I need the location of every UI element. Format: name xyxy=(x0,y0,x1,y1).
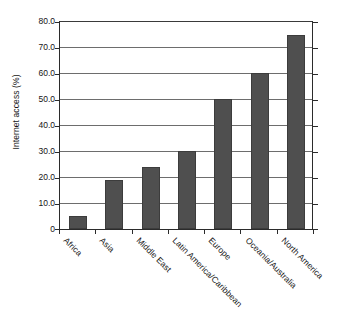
x-axis-tick-mark xyxy=(132,229,133,234)
x-axis-tick-mark xyxy=(277,229,278,234)
y-axis-tick-label: 10.0 xyxy=(17,199,55,208)
y-axis-tick-label: 60.0 xyxy=(17,69,55,78)
y-axis-tick-labels: 010.020.030.040.050.060.070.080.0 xyxy=(18,0,58,240)
x-axis-tick-mark xyxy=(95,229,96,234)
y-axis-tick-label: 50.0 xyxy=(17,95,55,104)
x-axis-tick-mark xyxy=(240,229,241,234)
x-axis-category-label: Latin America/Caribbean xyxy=(171,236,244,309)
x-axis-category-label: Asia xyxy=(98,236,116,254)
bar xyxy=(105,180,123,229)
y-axis-tick-label: 0 xyxy=(17,225,55,234)
x-axis-category-label: Africa xyxy=(62,236,84,258)
bar xyxy=(142,167,160,229)
y-axis-tick-label: 30.0 xyxy=(17,147,55,156)
bar xyxy=(69,216,87,229)
y-axis-tick-mark-right xyxy=(312,178,318,179)
y-axis-tick-mark-right xyxy=(312,48,318,49)
y-axis-tick-label: 40.0 xyxy=(17,121,55,130)
x-axis-tick-mark xyxy=(168,229,169,234)
y-axis-tick-mark-right xyxy=(312,204,318,205)
y-axis-tick-mark-right xyxy=(312,126,318,127)
x-axis-ticks xyxy=(59,229,313,235)
bar xyxy=(178,151,196,229)
x-axis-tick-mark xyxy=(59,229,60,234)
bar-chart-figure: Internet access (%) 010.020.030.040.050.… xyxy=(0,0,343,327)
bar xyxy=(214,99,232,229)
bar xyxy=(287,35,305,229)
x-axis-category-labels: AfricaAsiaMiddle EastLatin America/Carib… xyxy=(59,236,313,322)
x-axis-category-label: Middle East xyxy=(135,236,173,274)
bars-layer xyxy=(60,21,312,229)
bar xyxy=(251,73,269,229)
y-axis-tick-mark-right xyxy=(312,22,318,23)
plot-area xyxy=(59,21,313,229)
x-axis-tick-mark xyxy=(204,229,205,234)
y-axis-tick-label: 70.0 xyxy=(17,43,55,52)
x-axis-category-label: Europe xyxy=(207,236,233,262)
y-axis-tick-label: 20.0 xyxy=(17,173,55,182)
y-axis-tick-mark-right xyxy=(312,152,318,153)
y-axis-tick-label: 80.0 xyxy=(17,17,55,26)
y-axis-tick-mark-right xyxy=(312,74,318,75)
y-axis-tick-mark-right xyxy=(312,100,318,101)
x-axis-tick-mark xyxy=(313,229,314,234)
